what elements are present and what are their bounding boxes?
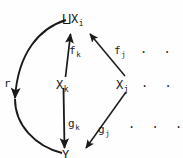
arrow-label-g-j: gj xyxy=(98,124,110,137)
ellipsis-top: · · · xyxy=(140,46,183,58)
node-y-subscript xyxy=(69,155,70,158)
arrow-label-g-j-base: g xyxy=(98,123,105,136)
arrow-g-j xyxy=(86,92,126,148)
arrow-label-r-base: r xyxy=(4,77,11,90)
arrow-label-g-k-base: g xyxy=(68,117,75,130)
arrow-g-k xyxy=(64,88,65,148)
node-x-k-subscript: k xyxy=(63,85,68,94)
arrow-label-f-k-base: f xyxy=(69,44,76,57)
arrow-label-r: r xyxy=(4,78,11,89)
node-x-j-subscript: j xyxy=(123,85,128,94)
node-y: Y xyxy=(62,149,70,158)
arrow-r-lower xyxy=(15,99,62,153)
arrow-label-f-j-subscript: j xyxy=(121,50,126,59)
node-x-j: Xj xyxy=(116,79,129,94)
arrow-label-g-k: gk xyxy=(68,118,80,131)
node-coproduct: ⨿Xi xyxy=(62,12,84,28)
arrow-label-f-k-subscript: k xyxy=(76,50,81,59)
arrow-label-f-j-base: f xyxy=(114,44,121,57)
arrow-label-g-j-subscript: j xyxy=(105,129,110,138)
ellipsis-middle: · · · xyxy=(141,80,183,92)
arrow-label-f-j: fj xyxy=(114,45,126,58)
node-coproduct-subscript: i xyxy=(78,19,83,28)
commutative-diagram: ⨿Xi Xk Xj Y fk fj gk gj r · · · · · · · … xyxy=(0,0,183,158)
coproduct-icon: ⨿ xyxy=(62,11,71,26)
node-x-k: Xk xyxy=(56,79,69,94)
ellipsis-bottom: · · · xyxy=(128,121,183,133)
arrow-label-g-k-subscript: k xyxy=(75,123,80,132)
arrow-label-f-k: fk xyxy=(69,45,81,58)
